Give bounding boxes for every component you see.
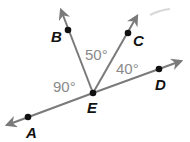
angle-label-AEB: 90° [53, 78, 76, 95]
angle-label-CED: 40° [116, 60, 139, 77]
point-B [65, 27, 72, 34]
point-E [90, 90, 97, 97]
ray-EA [7, 93, 93, 125]
label-C: C [133, 32, 145, 49]
stray-mark [150, 9, 170, 15]
point-D [156, 66, 163, 73]
label-A: A [25, 124, 37, 141]
label-E: E [87, 99, 98, 116]
label-D: D [155, 76, 166, 93]
angle-label-BEC: 50° [85, 46, 108, 63]
label-B: B [51, 28, 62, 45]
angle-diagram: B C D E A 90° 50° 40° [0, 0, 190, 142]
point-A [25, 114, 32, 121]
point-C [125, 30, 132, 37]
